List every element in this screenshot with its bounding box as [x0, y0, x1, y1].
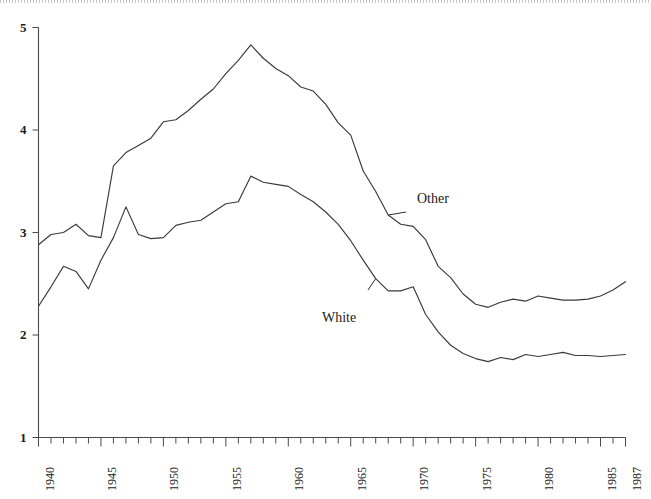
y-tick-label: 5	[5, 21, 27, 34]
axes-group	[33, 28, 626, 447]
series-line-other	[39, 45, 626, 307]
leader-line-white	[368, 279, 376, 290]
x-tick-label: 1960	[293, 467, 305, 491]
series-label-other: Other	[417, 192, 449, 206]
x-tick-label: 1980	[543, 467, 555, 491]
line-chart-plot	[0, 0, 651, 499]
series-label-white: White	[322, 311, 356, 325]
x-tick-label: 1950	[168, 467, 180, 491]
y-tick-label: 4	[5, 123, 27, 136]
y-tick-label: 2	[5, 328, 27, 341]
x-tick-label: 1965	[356, 467, 368, 491]
y-tick-label: 1	[5, 431, 27, 444]
y-tick-label: 3	[5, 226, 27, 239]
x-tick-label: 1975	[481, 467, 493, 491]
leader-line-other	[388, 212, 406, 215]
x-tick-label: 1945	[106, 467, 118, 491]
x-tick-label: 1940	[44, 467, 56, 491]
x-tick-label: 1955	[231, 467, 243, 491]
series-line-white	[39, 176, 626, 362]
x-tick-label: 1970	[418, 467, 430, 491]
x-tick-label: 1985	[606, 467, 618, 491]
x-tick-label: 1987	[631, 467, 643, 491]
chart-figure: 12345 1940194519501955196019651970197519…	[0, 0, 651, 499]
